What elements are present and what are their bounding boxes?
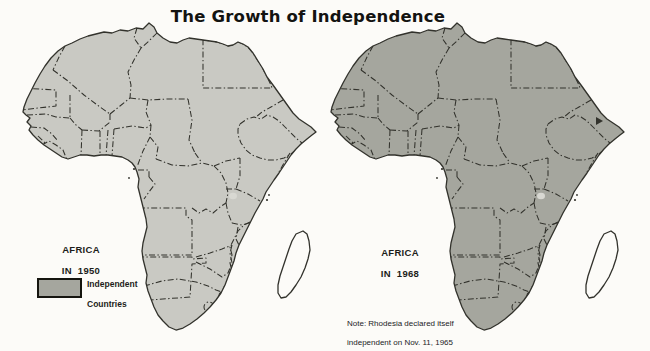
page-title: The Growth of Independence: [128, 7, 488, 26]
island-dot: [268, 194, 270, 196]
legend-independent-swatch: [37, 278, 82, 298]
lake-victoria: [537, 193, 545, 199]
island-dot: [266, 199, 268, 201]
legend-label-line2: Countries: [87, 299, 127, 309]
map-1968: [329, 23, 624, 340]
map-1968-label: AFRICA IN 1968: [368, 248, 432, 280]
legend: Independent Countries: [37, 278, 138, 309]
island-dot: [441, 168, 443, 170]
rhodesia-note-line1: Note: Rhodesia declared itself: [347, 319, 454, 328]
rhodesia-note-line2: independent on Nov. 11, 1965: [347, 338, 453, 347]
map-1950-label-line1: AFRICA: [62, 244, 100, 255]
island-dot: [574, 199, 576, 201]
region-madagascar: [586, 231, 618, 298]
independence-map-figure: The Growth of Independence AFRICA IN 195…: [0, 0, 650, 351]
legend-label: Independent Countries: [87, 278, 138, 309]
map-1968-label-line1: AFRICA: [381, 247, 419, 258]
island-dot: [133, 168, 135, 170]
region-madagascar: [278, 231, 310, 298]
map-1968-label-line2: IN 1968: [381, 268, 419, 279]
rhodesia-note: Note: Rhodesia declared itself independe…: [347, 319, 454, 348]
legend-label-line1: Independent: [87, 279, 138, 289]
island-dot: [576, 194, 578, 196]
island-dot: [128, 177, 130, 179]
island-dot: [436, 177, 438, 179]
map-1950-label-line2: IN 1950: [62, 265, 100, 276]
lake-victoria: [229, 193, 237, 199]
map-1950-label: AFRICA IN 1950: [50, 245, 112, 277]
